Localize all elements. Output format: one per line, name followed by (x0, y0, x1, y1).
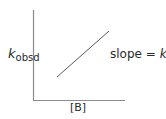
slope-annotation-variable: k (160, 47, 166, 61)
y-axis-label-subscript: obsd (16, 52, 40, 63)
y-axis-label: kobsd (8, 47, 40, 65)
kobsd-vs-concentration-plot: kobsd [B] slope = k (0, 0, 166, 119)
slope-annotation: slope = k (110, 48, 166, 61)
slope-annotation-prefix: slope = (110, 47, 160, 61)
data-line (57, 31, 109, 77)
y-axis-label-main: k (8, 46, 16, 61)
x-axis-label: [B] (70, 102, 86, 114)
